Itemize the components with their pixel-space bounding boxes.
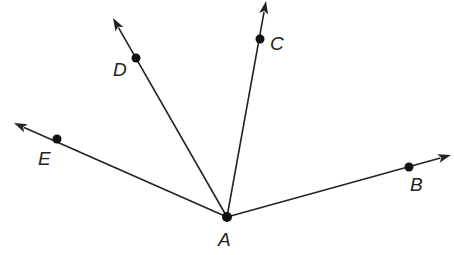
rays-layer [14,1,451,217]
label-b: B [410,174,423,195]
label-e: E [38,148,51,169]
point-d [132,54,141,63]
vertex-point-a [222,212,232,222]
arrowhead-icon [113,18,123,32]
point-b [405,163,414,172]
angle-rays-diagram: BCDEA [0,0,454,255]
label-a: A [217,229,231,250]
label-c: C [270,33,284,54]
label-d: D [113,59,127,80]
point-e [53,135,62,144]
point-c [256,35,265,44]
points-layer [53,35,414,223]
